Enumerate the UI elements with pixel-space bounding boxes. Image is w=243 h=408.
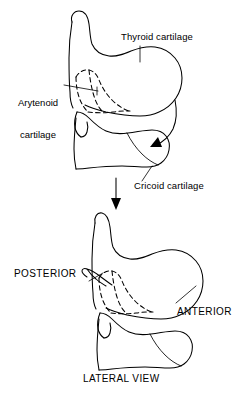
curved-arrow-icon	[150, 100, 176, 147]
upper-cricoid-cartilage-outline	[74, 112, 169, 169]
label-thyroid-cartilage: Thyroid cartilage	[121, 32, 193, 42]
label-leader-lines-upper	[64, 46, 152, 181]
figure-linework	[0, 0, 243, 408]
down-arrow-icon	[111, 178, 121, 210]
lower-cricoid-cartilage-outline	[97, 313, 192, 370]
upper-thyroid-cartilage-outline	[69, 11, 182, 116]
label-lateral-view: LATERAL VIEW	[83, 374, 160, 385]
anatomy-figure: Thyroid cartilage Arytenoid cartilage Cr…	[0, 0, 243, 408]
label-arytenoid-cartilage: Arytenoid cartilage	[10, 77, 66, 162]
lower-arytenoid-cartilage-dashed	[99, 271, 153, 314]
label-posterior: POSTERIOR	[14, 269, 77, 280]
label-anterior: ANTERIOR	[177, 307, 232, 318]
lower-thyroid-cartilage-outline	[92, 213, 203, 319]
label-arytenoid-cartilage-line2: cartilage	[10, 130, 66, 141]
label-arytenoid-cartilage-line1: Arytenoid	[10, 98, 66, 109]
upper-arytenoid-cartilage-dashed	[76, 70, 130, 113]
label-cricoid-cartilage: Cricoid cartilage	[134, 181, 204, 191]
label-leader-lines-lower	[89, 273, 196, 303]
